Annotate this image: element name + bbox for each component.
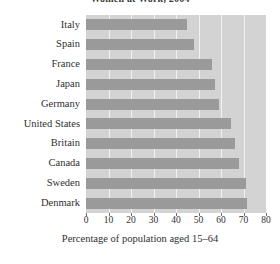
bar [86,79,215,90]
y-axis-labels: ItalySpainFranceJapanGermanyUnited State… [0,15,84,213]
bars-group [86,15,266,213]
chart-title: Women at Work, 2004 [0,0,280,4]
x-axis-tick-label: 80 [261,216,271,226]
bar-row [86,193,266,213]
bar [86,118,231,129]
x-axis-title: Percentage of population aged 15–64 [0,233,280,244]
x-axis-tick-label: 30 [149,216,159,226]
bar [86,178,246,189]
bar-row [86,94,266,114]
y-axis-tick-label: Spain [0,35,84,55]
bar [86,99,219,110]
x-axis-tick-label: 70 [239,216,249,226]
y-axis-tick-label: Denmark [0,193,84,213]
x-axis-tick-label: 40 [171,216,181,226]
x-axis: 01020304050607080 [86,213,266,229]
bar [86,39,194,50]
x-axis-tick-label: 10 [104,216,114,226]
bar-row [86,154,266,174]
y-axis-tick-label: Sweden [0,173,84,193]
y-axis-tick-label: United States [0,114,84,134]
bar-row [86,173,266,193]
y-axis-tick-label: Germany [0,94,84,114]
plot-area [86,15,266,213]
bar [86,59,212,70]
x-axis-tick-label: 50 [194,216,204,226]
x-axis-tick-label: 20 [126,216,136,226]
bar [86,138,235,149]
bar-row [86,74,266,94]
y-axis-tick-label: France [0,55,84,75]
bar-row [86,55,266,75]
x-axis-tick-label: 0 [84,216,89,226]
y-axis-tick-label: Canada [0,154,84,174]
bar-row [86,134,266,154]
bar [86,19,187,30]
x-axis-tick-label: 60 [216,216,226,226]
y-axis-tick-label: Britain [0,134,84,154]
y-axis-tick-label: Italy [0,15,84,35]
bar-row [86,15,266,35]
chart-figure: Women at Work, 2004 ItalySpainFranceJapa… [0,0,280,264]
bar [86,158,239,169]
bar-row [86,35,266,55]
bar [86,198,247,209]
bar-row [86,114,266,134]
y-axis-tick-label: Japan [0,74,84,94]
